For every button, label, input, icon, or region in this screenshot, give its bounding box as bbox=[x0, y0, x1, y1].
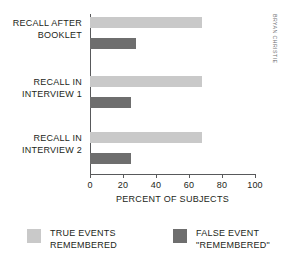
plot-area: 0 20 40 60 80 100 bbox=[90, 14, 255, 174]
legend-label-line: REMEMBERED bbox=[50, 240, 117, 252]
bar-false-events bbox=[90, 38, 136, 49]
category-label-line: RECALL AFTER bbox=[0, 18, 82, 30]
bar-false-events bbox=[90, 97, 131, 108]
bar-true-events bbox=[90, 132, 202, 143]
legend-label-line: FALSE EVENT bbox=[196, 228, 270, 240]
x-axis-tick bbox=[189, 174, 190, 178]
bar-true-events bbox=[90, 17, 202, 28]
legend-label: TRUE EVENTS REMEMBERED bbox=[50, 228, 117, 251]
x-axis-tick bbox=[123, 174, 124, 178]
category-label-line: INTERVIEW 2 bbox=[0, 145, 82, 157]
x-axis-title: PERCENT OF SUBJECTS bbox=[90, 194, 255, 204]
x-axis-tick-label: 40 bbox=[151, 180, 161, 190]
legend-swatch-icon bbox=[27, 229, 41, 243]
x-axis-tick-label: 80 bbox=[217, 180, 227, 190]
category-label-line: RECALL IN bbox=[0, 133, 82, 145]
bar-false-events bbox=[90, 153, 131, 164]
legend-swatch-icon bbox=[173, 229, 187, 243]
category-label-line: RECALL IN bbox=[0, 77, 82, 89]
illustrator-credit: BRYAN CHRISTIE bbox=[272, 14, 278, 63]
x-axis-tick bbox=[222, 174, 223, 178]
legend-label-line: "REMEMBERED" bbox=[196, 240, 270, 252]
category-label-recall-after-booklet: RECALL AFTER BOOKLET bbox=[0, 18, 82, 41]
x-axis-tick-label: 100 bbox=[247, 180, 263, 190]
bar-true-events bbox=[90, 76, 202, 87]
legend-item-true-events: TRUE EVENTS REMEMBERED bbox=[27, 228, 117, 251]
bar-chart: 0 20 40 60 80 100 RECALL AFTER BOOKLET R… bbox=[0, 0, 297, 259]
category-label-line: BOOKLET bbox=[0, 30, 82, 42]
category-label-line: INTERVIEW 1 bbox=[0, 89, 82, 101]
x-axis-tick bbox=[90, 174, 91, 178]
legend-item-false-events: FALSE EVENT "REMEMBERED" bbox=[173, 228, 270, 251]
category-label-recall-in-interview-1: RECALL IN INTERVIEW 1 bbox=[0, 77, 82, 100]
legend-label: FALSE EVENT "REMEMBERED" bbox=[196, 228, 270, 251]
x-axis-tick-label: 20 bbox=[118, 180, 128, 190]
category-label-recall-in-interview-2: RECALL IN INTERVIEW 2 bbox=[0, 133, 82, 156]
x-axis-tick-label: 0 bbox=[87, 180, 92, 190]
x-axis-tick-label: 60 bbox=[184, 180, 194, 190]
legend-label-line: TRUE EVENTS bbox=[50, 228, 117, 240]
x-axis-line bbox=[90, 174, 255, 175]
x-axis-tick bbox=[255, 174, 256, 178]
x-axis-tick bbox=[156, 174, 157, 178]
